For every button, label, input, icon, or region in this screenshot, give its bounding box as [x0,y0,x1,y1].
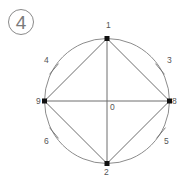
vertex-label-2: 2 [104,167,109,177]
vertex-point-2 [105,161,110,166]
vertex-label-8: 8 [172,96,177,106]
tick-label-3: 3 [167,55,172,65]
vertex-point-9 [42,99,47,104]
arc-bisector-tick-3 [156,64,165,75]
vertex-label-9: 9 [36,96,41,106]
center-label: 0 [110,102,115,112]
circle-square-diagram: 345612890 [0,0,188,183]
tick-label-4: 4 [44,55,49,65]
vertex-label-1: 1 [106,20,111,30]
vertex-point-1 [105,36,110,41]
tick-label-5: 5 [164,136,169,146]
square-side-8-2 [107,101,170,164]
tick-label-6: 6 [44,136,49,146]
arc-bisector-tick-4 [50,64,59,75]
arc-bisector-tick-6 [50,128,59,139]
